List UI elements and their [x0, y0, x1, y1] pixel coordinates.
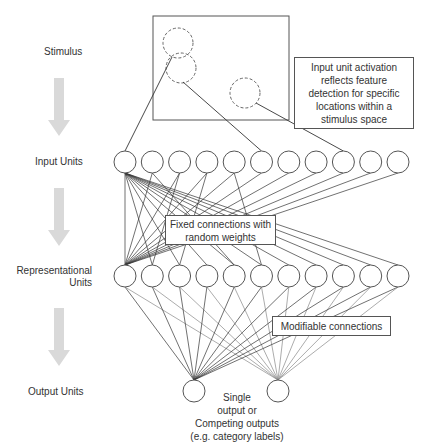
callout-line: stimulus space: [295, 113, 413, 126]
representational-label-line2: Units: [12, 277, 92, 289]
stimulus-label: Stimulus: [44, 46, 82, 58]
note-line: Competing outputs: [172, 417, 302, 430]
representational-unit: [332, 265, 354, 287]
down-arrow-icon: [48, 188, 70, 248]
down-arrow-icon: [48, 308, 70, 368]
input-unit: [332, 151, 354, 173]
input-unit: [387, 151, 409, 173]
stimulus-space: [153, 16, 289, 120]
fixed-connections-callout: Fixed connections with random weights: [165, 215, 276, 245]
input-unit: [305, 151, 327, 173]
note-line: output or: [172, 404, 302, 417]
callout-line: detection for specific: [295, 87, 413, 100]
representational-unit: [196, 265, 218, 287]
input-unit: [251, 151, 273, 173]
input-unit: [114, 151, 136, 173]
output-units-label: Output Units: [28, 386, 84, 398]
input-unit: [223, 151, 245, 173]
representational-unit: [141, 265, 163, 287]
representational-unit: [360, 265, 382, 287]
representational-unit: [305, 265, 327, 287]
output-note: Single output or Competing outputs (e.g.…: [172, 391, 302, 443]
input-unit: [169, 151, 191, 173]
input-unit: [141, 151, 163, 173]
receptive-field-3: [230, 78, 260, 108]
representational-unit: [278, 265, 300, 287]
note-line: (e.g. category labels): [172, 430, 302, 443]
callout-line: reflects feature: [295, 74, 413, 87]
representational-label-line1: Representational: [12, 265, 92, 277]
input-activation-callout: Input unit activation reflects feature d…: [294, 57, 414, 129]
callout-line: Input unit activation: [295, 61, 413, 74]
input-unit: [196, 151, 218, 173]
representational-units-label: Representational Units: [12, 265, 92, 289]
representational-unit: [251, 265, 273, 287]
down-arrow-icon: [48, 78, 70, 138]
input-unit: [360, 151, 382, 173]
input-units-label: Input Units: [35, 156, 83, 168]
representational-unit: [223, 265, 245, 287]
representational-unit: [169, 265, 191, 287]
callout-line: random weights: [166, 231, 275, 244]
callout-line: locations within a: [295, 100, 413, 113]
callout-line: Fixed connections with: [166, 218, 275, 231]
input-unit: [278, 151, 300, 173]
modifiable-connections-callout: Modifiable connections: [272, 316, 391, 336]
note-line: Single: [172, 391, 302, 404]
representational-unit: [114, 265, 136, 287]
representational-unit: [387, 265, 409, 287]
